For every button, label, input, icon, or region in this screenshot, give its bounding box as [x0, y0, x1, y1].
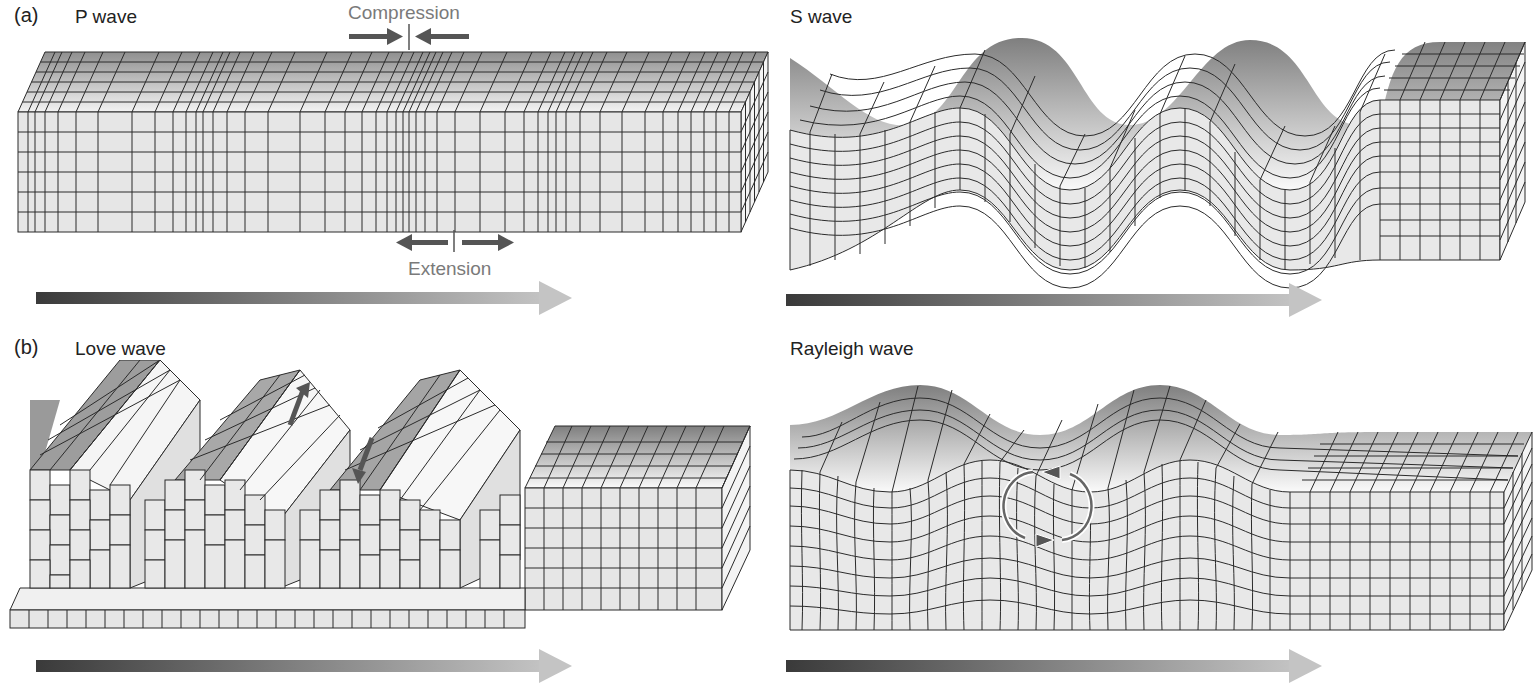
- panel-title-s-wave: S wave: [790, 6, 852, 28]
- propagation-arrow-icon: [784, 648, 1329, 684]
- propagation-arrow-icon: [34, 280, 579, 316]
- panel-title-love-wave: Love wave: [75, 338, 166, 360]
- rayleigh-wave-block: [780, 380, 1533, 640]
- panel-letter-a: (a): [14, 4, 38, 27]
- panel-title-rayleigh-wave: Rayleigh wave: [790, 338, 914, 360]
- compression-arrows-icon: [345, 24, 475, 50]
- love-wave-block: [0, 360, 780, 640]
- extension-arrows-icon: [390, 230, 520, 256]
- propagation-arrow-icon: [784, 282, 1329, 318]
- compression-label: Compression: [348, 2, 460, 24]
- propagation-arrow-icon: [34, 648, 579, 684]
- panel-title-p-wave: P wave: [75, 6, 137, 28]
- s-wave-block: [780, 30, 1533, 290]
